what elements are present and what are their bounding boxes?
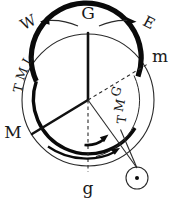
label-g-lowercase: g (83, 178, 94, 198)
label-g-top: G (81, 3, 95, 23)
label-gmt-letter-t: T (114, 114, 130, 125)
label-gmt-group: G M T (107, 84, 129, 125)
label-m-meridian: M (4, 122, 21, 142)
diagram-root: G W E M m g L M T G M T (0, 0, 175, 200)
label-gmt-letter-g: G (107, 84, 125, 99)
radius-to-m-meridian (32, 100, 88, 134)
label-lmt-letter-m: M (12, 64, 31, 82)
celestial-clock-diagram: G W E M m g L M T G M T (0, 0, 175, 200)
sun-symbol-dot (135, 176, 139, 180)
west-arrow-shaft (48, 20, 79, 26)
label-gmt-letter-m: M (111, 97, 128, 113)
label-e-east: E (140, 12, 158, 33)
label-m-lowercase: m (152, 46, 168, 66)
